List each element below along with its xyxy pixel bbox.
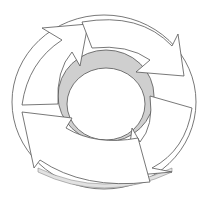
inner-hole <box>67 68 145 140</box>
cycle-diagram <box>0 0 207 199</box>
cycle-diagram-svg <box>0 0 207 199</box>
